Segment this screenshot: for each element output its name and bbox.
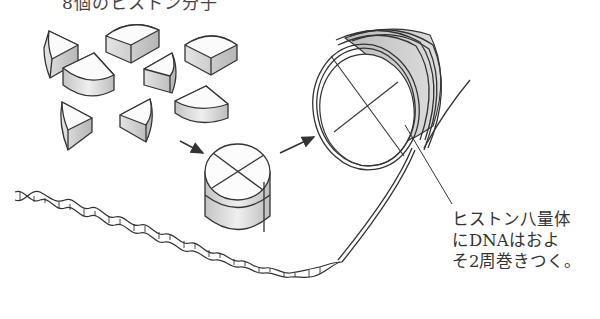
histone-piece-6 [175, 86, 228, 122]
nucleosome [305, 29, 470, 262]
histone-piece-2 [106, 25, 159, 63]
dna-double-helix [15, 191, 342, 277]
histone-pieces [44, 25, 237, 150]
annotation-line-3: そ2周巻きつく。 [452, 251, 600, 272]
annotation-line-2: にDNAはおよ [452, 230, 600, 251]
histone-piece-7 [61, 102, 92, 150]
histone-piece-8 [120, 99, 152, 142]
histone-piece-5 [144, 53, 176, 93]
annotation-line-1: ヒストン八量体 [452, 209, 600, 230]
arrow-to-nucleosome [280, 137, 314, 153]
histone-octamer [205, 144, 270, 232]
arrow-to-octamer [180, 141, 203, 153]
histone-piece-3 [185, 36, 237, 75]
annotation-text: ヒストン八量体 にDNAはおよ そ2周巻きつく。 [452, 209, 600, 272]
